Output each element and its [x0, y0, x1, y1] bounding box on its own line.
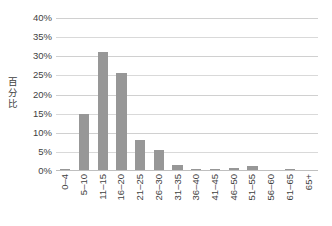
- y-axis-title-char: 百: [6, 76, 20, 87]
- x-axis-tick-label: 5–10: [75, 172, 94, 224]
- x-axis-tick-label: 61–65: [281, 172, 300, 224]
- bar-slot: [206, 18, 225, 171]
- x-axis-tick-label: 36–40: [187, 172, 206, 224]
- x-axis-tick-label: 11–15: [93, 172, 112, 224]
- y-axis-tick-label: 25%: [33, 70, 52, 80]
- bar-slot: [168, 18, 187, 171]
- y-axis-tick-label: 0%: [38, 166, 52, 176]
- x-axis-tick-label: 51–55: [243, 172, 262, 224]
- y-axis-tick-label: 30%: [33, 51, 52, 61]
- bar[interactable]: [98, 52, 108, 171]
- x-axis-tick-label: 41–45: [206, 172, 225, 224]
- bar-slot: [281, 18, 300, 171]
- bar-slot: [56, 18, 75, 171]
- x-axis-tick-label: 56–60: [262, 172, 281, 224]
- x-axis-tick-labels: 0–45–1011–1516–2021–2526–3031–3536–4041–…: [56, 172, 318, 226]
- y-axis-tick-label: 10%: [33, 128, 52, 138]
- bars-layer: [56, 18, 318, 171]
- bar-slot: [75, 18, 94, 171]
- bar-slot: [299, 18, 318, 171]
- y-axis-tick-label: 5%: [38, 147, 52, 157]
- y-axis-tick-label: 15%: [33, 109, 52, 119]
- bar[interactable]: [135, 140, 145, 171]
- bar-slot: [243, 18, 262, 171]
- bar-slot: [187, 18, 206, 171]
- bar-slot: [93, 18, 112, 171]
- bar-slot: [262, 18, 281, 171]
- y-axis-tick-label: 40%: [33, 13, 52, 23]
- bar-slot: [131, 18, 150, 171]
- x-axis-tick-label: 21–25: [131, 172, 150, 224]
- y-axis-title: 百分比: [6, 76, 20, 109]
- bar[interactable]: [154, 150, 164, 171]
- bar[interactable]: [79, 114, 89, 171]
- x-axis-tick-label: 16–20: [112, 172, 131, 224]
- x-axis-tick-label: 26–30: [150, 172, 169, 224]
- x-axis-tick-label: 0–4: [56, 172, 75, 224]
- y-axis-tick-labels: 40%35%30%25%20%15%10%5%0%: [22, 0, 52, 226]
- bar-slot: [224, 18, 243, 171]
- x-axis-line: [56, 170, 318, 171]
- y-axis-tick-label: 35%: [33, 32, 52, 42]
- bar-slot: [150, 18, 169, 171]
- bar[interactable]: [116, 73, 126, 171]
- x-axis-tick-label: 65+: [299, 172, 318, 224]
- bar-chart: 百分比 40%35%30%25%20%15%10%5%0% 0–45–1011–…: [0, 0, 332, 226]
- bar-slot: [112, 18, 131, 171]
- x-axis-tick-label: 46–50: [224, 172, 243, 224]
- y-axis-title-char: 比: [6, 98, 20, 109]
- y-axis-title-char: 分: [6, 87, 20, 98]
- plot-area: [56, 18, 318, 171]
- y-axis-tick-label: 20%: [33, 90, 52, 100]
- x-axis-tick-label: 31–35: [168, 172, 187, 224]
